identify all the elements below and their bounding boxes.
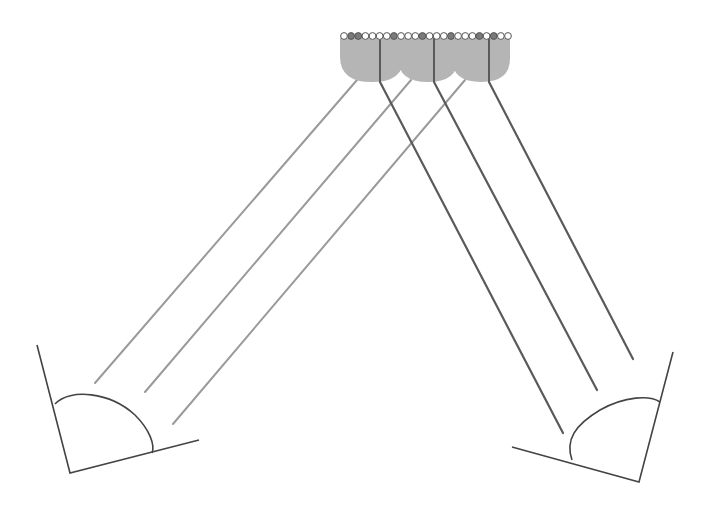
incident-rays	[95, 80, 465, 424]
emitter	[426, 33, 433, 40]
left-receiver	[37, 345, 199, 473]
emitter	[362, 33, 369, 40]
emitter-active	[348, 33, 355, 40]
emitter	[469, 33, 476, 40]
emitter	[405, 33, 412, 40]
right-receiver	[512, 352, 673, 482]
emitter	[383, 33, 390, 40]
receiver-dish-curve	[55, 394, 153, 453]
emitter	[497, 33, 504, 40]
emitter	[505, 33, 512, 40]
emitter	[462, 33, 469, 40]
receiver-dishes	[37, 345, 673, 482]
emitter	[398, 33, 405, 40]
emitter	[483, 33, 490, 40]
emitter	[440, 33, 447, 40]
emitter	[412, 33, 419, 40]
emitter-active	[490, 33, 497, 40]
emitter	[341, 33, 348, 40]
lens	[452, 38, 510, 82]
diagram-canvas	[0, 0, 702, 508]
incident-ray	[95, 80, 357, 383]
emitter	[376, 33, 383, 40]
optical-diagram	[0, 0, 702, 508]
emitter-active	[448, 33, 455, 40]
reflected-ray	[380, 82, 563, 433]
reflected-ray	[489, 82, 633, 359]
receiver-frame	[512, 352, 673, 482]
lens-array	[340, 38, 510, 82]
receiver-frame	[37, 345, 199, 473]
lens	[340, 38, 404, 82]
incident-ray	[173, 80, 465, 424]
emitter-active	[419, 33, 426, 40]
lens	[398, 38, 458, 82]
incident-ray	[145, 80, 411, 392]
emitter-active	[355, 33, 362, 40]
emitter	[369, 33, 376, 40]
emitter	[433, 33, 440, 40]
emitter-active	[391, 33, 398, 40]
emitter	[455, 33, 462, 40]
emitter-active	[476, 33, 483, 40]
